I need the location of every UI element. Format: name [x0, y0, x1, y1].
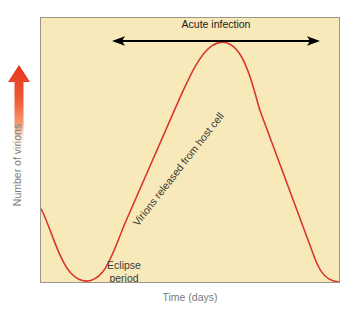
double-headed-arrow-icon: [112, 33, 320, 49]
x-axis-label: Time (days): [40, 291, 340, 303]
plot-panel: Eclipse period Virions released from hos…: [40, 17, 340, 283]
eclipse-period-annotation: Eclipse period: [89, 259, 159, 283]
eclipse-period-line-2: period: [89, 272, 159, 283]
acute-infection-label: Acute infection: [112, 18, 320, 30]
acute-infection-annotation: Acute infection: [112, 18, 320, 50]
virion-replication-chart: Number of virions Eclipse period Virions…: [0, 0, 358, 313]
y-axis-group: Number of virions: [0, 17, 40, 283]
eclipse-period-line-1: Eclipse: [89, 259, 159, 272]
y-axis-label: Number of virions: [9, 95, 25, 235]
